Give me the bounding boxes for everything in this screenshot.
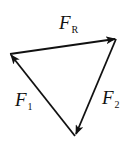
label-fr-sub: R bbox=[72, 24, 79, 35]
label-f2-sub: 2 bbox=[115, 99, 120, 110]
label-f2-main: F bbox=[102, 87, 114, 108]
label-fr-main: F bbox=[59, 12, 71, 33]
label-f1: F1 bbox=[15, 90, 33, 112]
label-f1-sub: 1 bbox=[28, 101, 33, 112]
label-f1-main: F bbox=[15, 89, 27, 110]
vector-fr-arrow bbox=[10, 39, 115, 54]
label-fr: FR bbox=[59, 13, 78, 35]
label-f2: F2 bbox=[102, 88, 120, 110]
